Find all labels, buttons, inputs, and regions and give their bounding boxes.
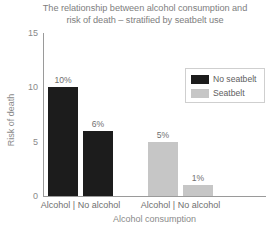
x-axis-group-label: Alcohol | No alcohol <box>141 200 220 210</box>
x-axis-title: Alcohol consumption <box>43 214 266 224</box>
chart-title-line-1: The relationship between alcohol consump… <box>22 2 268 14</box>
legend-item-label: No seatbelt <box>213 74 256 84</box>
bar-value-label: 10% <box>54 75 71 85</box>
y-axis-tick-label: 15 <box>18 28 38 38</box>
y-axis-tick-label: 5 <box>18 137 38 147</box>
legend-swatch-icon <box>191 89 209 98</box>
bar-value-label: 6% <box>92 119 104 129</box>
bar <box>83 131 113 196</box>
bar-chart: The relationship between alcohol consump… <box>0 0 270 227</box>
x-axis-group-label: Alcohol | No alcohol <box>41 200 120 210</box>
y-axis-tick-label: 0 <box>18 191 38 201</box>
legend-item-label: Seatbelt <box>213 88 245 98</box>
legend-swatch-icon <box>191 75 209 84</box>
bar <box>183 185 213 196</box>
x-axis-line <box>43 196 266 197</box>
bar <box>48 87 78 196</box>
bar <box>148 142 178 196</box>
bar-value-label: 5% <box>157 130 169 140</box>
chart-title-line-2: risk of death – stratified by seatbelt u… <box>22 14 268 26</box>
legend-item[interactable]: Seatbelt <box>191 87 245 99</box>
chart-legend: No seatbeltSeatbelt <box>185 68 265 103</box>
plot-area: 10%6%5%1% <box>44 33 266 196</box>
bar-value-label: 1% <box>192 173 204 183</box>
y-axis-title: Risk of death <box>6 85 16 155</box>
chart-title: The relationship between alcohol consump… <box>22 2 268 26</box>
legend-item[interactable]: No seatbelt <box>191 73 256 85</box>
y-axis-tick-label: 10 <box>18 82 38 92</box>
